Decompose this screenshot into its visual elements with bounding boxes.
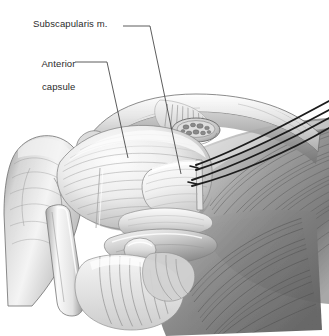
medical-illustration-figure: Subscapularis m. Anterior capsule bbox=[0, 0, 329, 336]
label-anterior-capsule-line1: Anterior bbox=[41, 58, 75, 69]
label-anterior-capsule-line2: capsule bbox=[42, 81, 75, 92]
label-subscapularis: Subscapularis m. bbox=[33, 18, 107, 30]
label-anterior-capsule: Anterior capsule bbox=[31, 46, 76, 104]
